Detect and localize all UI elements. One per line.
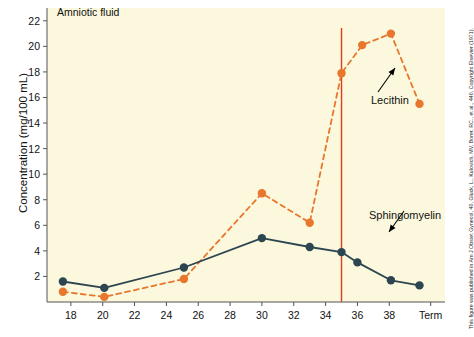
y-tick-label: 22 [18,15,40,27]
data-point-lecithin [358,41,366,49]
x-tick-label: 20 [97,309,109,321]
y-tick-label: 20 [18,40,40,52]
data-point-sphingomyelin [306,243,314,251]
source-credit: This figure was published in Am J Obstet… [468,9,474,329]
data-point-lecithin [59,288,67,296]
y-tick-label: 6 [18,219,40,231]
x-tick-label: 30 [256,309,268,321]
y-tick-label: 16 [18,91,40,103]
x-tick-label: 18 [65,309,77,321]
x-tick-label: 34 [320,309,332,321]
x-tick-label: 26 [192,309,204,321]
y-tick-label: 8 [18,194,40,206]
data-point-lecithin [258,189,266,197]
x-tick-label: 36 [352,309,364,321]
annotation-sphingomyelin: Sphingomyelin [369,209,441,221]
x-tick-label: Term [419,309,442,321]
data-point-sphingomyelin [59,277,67,285]
y-tick-label: 14 [18,117,40,129]
data-point-sphingomyelin [258,234,266,242]
data-point-lecithin [306,219,314,227]
panel-label: Amniotic fluid [57,6,119,18]
data-point-sphingomyelin [387,276,395,284]
x-tick-label: 38 [383,309,395,321]
y-tick-label: 12 [18,143,40,155]
data-point-lecithin [180,275,188,283]
data-point-lecithin [100,293,108,301]
x-tick-label: 24 [161,309,173,321]
data-point-sphingomyelin [353,258,361,266]
data-point-sphingomyelin [180,263,188,271]
data-point-lecithin [337,69,345,77]
data-point-sphingomyelin [337,248,345,256]
data-point-lecithin [387,29,395,37]
y-tick-label: 18 [18,66,40,78]
data-point-lecithin [415,100,423,108]
data-point-sphingomyelin [415,281,423,289]
y-tick-label: 10 [18,168,40,180]
y-tick-label: 2 [18,270,40,282]
y-tick-label: 4 [18,245,40,257]
data-point-sphingomyelin [100,284,108,292]
x-tick-label: 32 [288,309,300,321]
plot-background [47,8,445,302]
x-tick-label: 28 [224,309,236,321]
annotation-lecithin: Lecithin [371,94,409,106]
x-tick-label: 22 [129,309,141,321]
